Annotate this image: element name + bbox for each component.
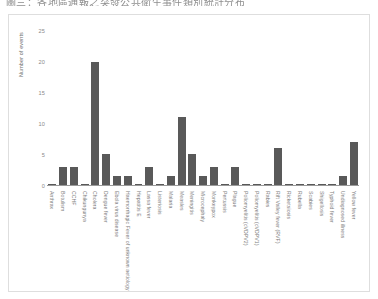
x-axis-tick-label: Poliomyelitis (cVDPV2) <box>243 191 249 246</box>
bar <box>91 62 99 185</box>
x-label-cell: Meningitis <box>187 189 198 293</box>
bar <box>102 154 110 185</box>
bar <box>188 154 196 185</box>
x-axis-tick-label: Ricketsiosis <box>286 191 292 219</box>
x-axis-tick-label: Dengue fever <box>103 191 109 223</box>
y-axis-tick-label: 25 <box>23 28 45 34</box>
bar-cell <box>230 31 241 185</box>
bar <box>210 167 218 185</box>
x-axis-tick-label: Typhoid fever <box>329 191 335 223</box>
bar <box>274 148 282 185</box>
x-axis-tick-label: Plague <box>232 191 238 207</box>
bar <box>59 167 67 185</box>
x-label-cell: CCHF <box>69 189 80 293</box>
x-label-cell: Poliomyelitis (cVDPV2) <box>241 189 252 293</box>
bar-cell <box>327 31 338 185</box>
x-axis-tick-label: Listeriosis <box>157 191 163 215</box>
x-label-cell: Plague <box>230 189 241 293</box>
x-axis-tick-label: Botulism <box>60 191 66 211</box>
bar-cell <box>208 31 219 185</box>
bar-cell <box>316 31 327 185</box>
x-label-cell: Cholera <box>90 189 101 293</box>
x-label-cell: Haemorrhagic Fever of unknown aetiology <box>122 189 133 293</box>
x-axis-tick-label: Measles <box>179 191 185 211</box>
bar-cell <box>295 31 306 185</box>
x-label-cell: Poliomyelitis (cVDPV1) <box>252 189 263 293</box>
bar <box>113 176 121 185</box>
x-label-cell: Dengue fever <box>101 189 112 293</box>
bar-cell <box>176 31 187 185</box>
x-label-cell: Scabies <box>305 189 316 293</box>
x-axis-tick-label: Cholera <box>92 191 98 210</box>
x-axis-tick-label: Poliomyelitis (cVDPV1) <box>254 191 260 246</box>
y-axis-tick-label: 20 <box>23 59 45 65</box>
bar-cell <box>305 31 316 185</box>
y-axis-tick-label: 0 <box>23 183 45 189</box>
x-axis-tick-label: Hepatitis E <box>136 191 142 217</box>
x-axis-tick-label: Rubella <box>297 191 303 209</box>
y-axis-ticks: 0510152025 <box>23 31 45 186</box>
x-label-cell: Microcephaly <box>198 189 209 293</box>
bar <box>124 176 132 185</box>
bar <box>145 167 153 185</box>
bar <box>178 117 186 185</box>
plot-area-wrapper: Number of events 0510152025 AnthraxBotul… <box>9 15 369 291</box>
x-axis-tick-label: Ebola virus disease <box>114 191 120 237</box>
bar-cell <box>252 31 263 185</box>
x-label-cell: Pertussis <box>219 189 230 293</box>
bar-cell <box>338 31 349 185</box>
bar-cell <box>198 31 209 185</box>
bar <box>350 142 358 185</box>
x-label-cell: Yellow fever <box>348 189 359 293</box>
x-label-cell: Rabies <box>262 189 273 293</box>
bar <box>231 167 239 185</box>
x-label-cell: Typhoid fever <box>327 189 338 293</box>
x-label-cell: Measles <box>176 189 187 293</box>
bar <box>70 167 78 185</box>
clipped-caption: 圖三：各地區通報之突發公共衛生事件類別統計分布 <box>6 0 372 6</box>
chart-panel: Number of events 0510152025 AnthraxBotul… <box>8 14 370 292</box>
bar-cell <box>133 31 144 185</box>
x-axis-line <box>47 185 359 186</box>
bar-cell <box>273 31 284 185</box>
x-axis-tick-label: Yellow fever <box>351 191 357 219</box>
x-axis-tick-label: Pertussis <box>222 191 228 213</box>
bar-cell <box>241 31 252 185</box>
x-label-cell: Ricketsiosis <box>284 189 295 293</box>
bar <box>199 176 207 185</box>
y-axis-tick-label: 15 <box>23 90 45 96</box>
x-label-cell: Undiagnosed illness <box>338 189 349 293</box>
x-label-cell: Hepatitis E <box>133 189 144 293</box>
x-axis-tick-label: CCHF <box>71 191 77 206</box>
x-axis-tick-label: Rabies <box>265 191 271 207</box>
x-label-cell: Listeriosis <box>155 189 166 293</box>
x-axis-tick-label: Lassa fever <box>146 191 152 218</box>
x-axis-tick-label: Rift Valley fever (RVF) <box>275 191 281 244</box>
x-label-cell: Anthrax <box>47 189 58 293</box>
bar-cell <box>47 31 58 185</box>
x-label-cell: Shigellosis <box>316 189 327 293</box>
x-label-cell: Malaria <box>165 189 176 293</box>
bar-cell <box>58 31 69 185</box>
bar-cell <box>348 31 359 185</box>
bar-cell <box>219 31 230 185</box>
plot-area <box>47 31 359 186</box>
x-label-cell: Monkeypox <box>208 189 219 293</box>
x-axis-tick-label: Haemorrhagic Fever of unknown aetiology <box>125 191 131 291</box>
x-axis-tick-label: Shigellosis <box>319 191 325 216</box>
bar-cell <box>90 31 101 185</box>
bar-cell <box>79 31 90 185</box>
bar <box>167 176 175 185</box>
bar-cell <box>144 31 155 185</box>
x-label-cell: Botulism <box>58 189 69 293</box>
y-axis-tick-label: 5 <box>23 152 45 158</box>
bar-cell <box>165 31 176 185</box>
x-axis-tick-label: Chikungunya <box>82 191 88 222</box>
bar-cell <box>187 31 198 185</box>
x-axis-tick-label: Anthrax <box>49 191 55 209</box>
bar-cell <box>262 31 273 185</box>
x-label-cell: Rubella <box>295 189 306 293</box>
bar-cell <box>122 31 133 185</box>
x-axis-tick-label: Undiagnosed illness <box>340 191 346 239</box>
bar-series <box>47 31 359 185</box>
